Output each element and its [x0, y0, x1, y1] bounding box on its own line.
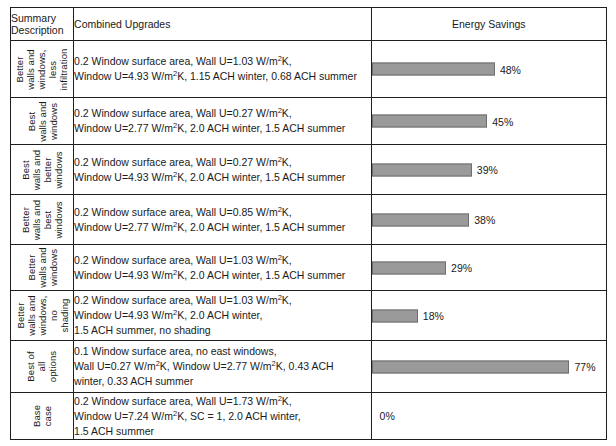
combined-upgrades-line: Window U=2.77 W/m2K, 2.0 ACH winter, 1.5…: [74, 220, 370, 235]
summary-label-line: windows,: [37, 295, 48, 336]
summary-description-cell: Betterwalls andwindows,noshading: [11, 291, 74, 341]
energy-savings-cell: 0%: [371, 393, 606, 440]
combined-upgrades-cell: 0.2 Window surface area, Wall U=0.27 W/m…: [74, 98, 371, 145]
combined-upgrades-line: 0.2 Window surface area, Wall U=0.27 W/m…: [74, 155, 370, 170]
energy-savings-cell: 29%: [371, 245, 606, 291]
savings-value-label: 77%: [569, 361, 595, 373]
summary-label-line: Better: [26, 247, 37, 288]
summary-label-line: options: [48, 351, 59, 382]
header-summary-line2: Description: [11, 24, 64, 36]
savings-value-label: 29%: [446, 262, 472, 274]
savings-bar-row: 39%: [372, 163, 606, 176]
combined-upgrades-line: 1.5 ACH summer, no shading: [74, 323, 370, 338]
combined-upgrades-line: 0.2 Window surface area, Wall U=1.73 W/m…: [74, 394, 370, 409]
summary-label-line: shading: [59, 295, 70, 336]
summary-description-cell: Betterwalls andwindows: [11, 245, 74, 291]
rotated-label-wrapper: Betterwalls andbestwindows: [11, 195, 73, 244]
savings-bar: [372, 163, 472, 176]
summary-description-label: Betterwalls andwindows,noshading: [15, 295, 70, 336]
energy-savings-cell: 38%: [371, 195, 606, 245]
summary-description-label: Betterwalls andbestwindows: [20, 199, 64, 240]
energy-savings-cell: 45%: [371, 98, 606, 145]
savings-bar: [372, 115, 488, 128]
figure-container: Summary Description Combined Upgrades En…: [0, 0, 616, 446]
summary-label-line: Best: [20, 149, 31, 190]
summary-description-label: Bestwalls andbetterwindows: [20, 149, 64, 190]
combined-upgrades-line: 0.2 Window surface area, Wall U=1.03 W/m…: [74, 54, 370, 69]
header-row: Summary Description Combined Upgrades En…: [11, 8, 607, 41]
energy-savings-cell: 77%: [371, 341, 606, 393]
combined-upgrades-line: Window U=7.24 W/m2K, SC = 1, 2.0 ACH win…: [74, 409, 370, 424]
summary-label-line: Better: [20, 199, 31, 240]
energy-savings-cell: 18%: [371, 291, 606, 341]
summary-label-line: Best: [26, 101, 37, 142]
table-row: Betterwalls andwindows,noshading0.2 Wind…: [11, 291, 607, 341]
combined-upgrades-cell: 0.2 Window surface area, Wall U=1.03 W/m…: [74, 41, 371, 98]
column-header-energy-savings: Energy Savings: [371, 8, 606, 41]
rotated-label-wrapper: Betterwalls andwindows: [11, 245, 73, 290]
summary-label-line: best: [42, 199, 53, 240]
summary-label-line: windows: [48, 101, 59, 142]
combined-upgrades-cell: 0.2 Window surface area, Wall U=1.03 W/m…: [74, 291, 371, 341]
energy-savings-cell: 48%: [371, 41, 606, 98]
savings-bar: [372, 63, 495, 76]
summary-label-line: windows: [53, 149, 64, 190]
combined-upgrades-cell: 0.2 Window surface area, Wall U=0.85 W/m…: [74, 195, 371, 245]
summary-label-line: case: [42, 405, 53, 427]
summary-label-line: walls and: [37, 101, 48, 142]
combined-upgrades-line: Wall U=0.27 W/m2K, Window U=2.77 W/m2K, …: [74, 359, 370, 374]
combined-upgrades-line: 1.5 ACH summer: [74, 424, 370, 439]
summary-description-cell: Best ofalloptions: [11, 341, 74, 393]
summary-label-line: walls and: [31, 199, 42, 240]
savings-bar-row: 29%: [372, 261, 606, 274]
summary-label-line: Base: [31, 405, 42, 427]
rotated-label-wrapper: Bestwalls andwindows: [11, 98, 73, 144]
savings-bar: [372, 309, 418, 322]
savings-bar-row: 45%: [372, 115, 606, 128]
summary-label-line: walls and: [37, 247, 48, 288]
table-row: Bestwalls andbetterwindows0.2 Window sur…: [11, 145, 607, 195]
rotated-label-wrapper: Betterwalls andwindows,noshading: [11, 291, 73, 340]
combined-upgrades-line: Window U=4.93 W/m2K, 2.0 ACH winter,: [74, 308, 370, 323]
combined-upgrades-line: Window U=4.93 W/m2K, 1.15 ACH winter, 0.…: [74, 69, 370, 84]
rotated-label-wrapper: Bestwalls andbetterwindows: [11, 145, 73, 194]
summary-label-line: better: [42, 149, 53, 190]
rotated-label-wrapper: Betterwalls andwindows,lessinfiltration: [11, 41, 73, 97]
combined-upgrades-cell: 0.2 Window surface area, Wall U=0.27 W/m…: [74, 145, 371, 195]
summary-description-label: Betterwalls andwindows: [26, 247, 59, 288]
summary-description-cell: Betterwalls andbestwindows: [11, 195, 74, 245]
summary-label-line: Best of: [26, 351, 37, 382]
summary-description-cell: Betterwalls andwindows,lessinfiltration: [11, 41, 74, 98]
savings-value-label: 48%: [495, 63, 521, 75]
table-header: Summary Description Combined Upgrades En…: [11, 8, 607, 41]
summary-description-label: Basecase: [31, 405, 53, 427]
savings-bar: [372, 213, 470, 226]
header-summary-line1: Summary: [11, 12, 56, 24]
savings-bar-row: 38%: [372, 213, 606, 226]
summary-label-line: windows,: [37, 48, 48, 90]
table-row: Betterwalls andwindows,lessinfiltration0…: [11, 41, 607, 98]
upgrades-savings-table: Summary Description Combined Upgrades En…: [10, 7, 607, 440]
combined-upgrades-cell: 0.2 Window surface area, Wall U=1.73 W/m…: [74, 393, 371, 440]
column-header-summary-description: Summary Description: [11, 8, 74, 41]
summary-label-line: windows: [48, 247, 59, 288]
combined-upgrades-line: winter, 0.33 ACH summer: [74, 374, 370, 389]
table-row: Basecase0.2 Window surface area, Wall U=…: [11, 393, 607, 440]
savings-value-label: 18%: [418, 310, 444, 322]
savings-bar: [372, 261, 447, 274]
summary-description-cell: Bestwalls andwindows: [11, 98, 74, 145]
combined-upgrades-line: 0.2 Window surface area, Wall U=1.03 W/m…: [74, 253, 370, 268]
summary-label-line: Better: [15, 48, 26, 90]
combined-upgrades-line: Window U=4.93 W/m2K, 2.0 ACH winter, 1.5…: [74, 268, 370, 283]
combined-upgrades-line: Window U=2.77 W/m2K, 2.0 ACH winter, 1.5…: [74, 121, 370, 136]
summary-description-label: Best ofalloptions: [26, 351, 59, 382]
savings-bar-row: 48%: [372, 63, 606, 76]
summary-label-line: walls and: [26, 48, 37, 90]
savings-value-label: 39%: [472, 164, 498, 176]
summary-description-cell: Basecase: [11, 393, 74, 440]
summary-label-line: Better: [15, 295, 26, 336]
combined-upgrades-cell: 0.1 Window surface area, no east windows…: [74, 341, 371, 393]
summary-label-line: all: [37, 351, 48, 382]
combined-upgrades-line: 0.2 Window surface area, Wall U=0.27 W/m…: [74, 106, 370, 121]
table-row: Best ofalloptions0.1 Window surface area…: [11, 341, 607, 393]
